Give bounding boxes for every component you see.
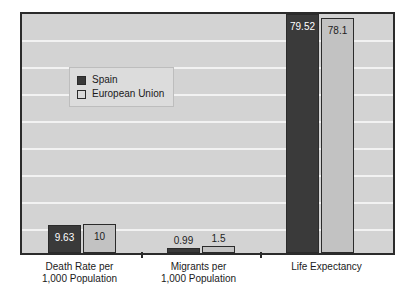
legend-item-spain: Spain [77,73,164,87]
legend-item-european-union: European Union [77,87,164,101]
category-label-line: Migrants per [139,261,258,273]
bar-value-label: 78.1 [322,25,353,36]
category-label-line: Death Rate per [20,261,139,273]
grouped-bar-chart: 9.63 10 0.99 1.5 79.52 78.1 Spain [0,0,415,303]
bar-spain-migrants[interactable]: 0.99 [167,248,200,253]
legend-swatch-icon [77,90,86,99]
bar-spain-life-expectancy[interactable]: 79.52 [286,14,319,253]
bar-value-label: 9.63 [49,232,80,243]
chart-legend: Spain European Union [69,67,174,107]
bar-european-union-migrants[interactable]: 1.5 [202,246,235,253]
category-label-migrants: Migrants per 1,000 Population [139,261,258,285]
category-label-line: 1,000 Population [139,273,258,285]
category-label-death-rate: Death Rate per 1,000 Population [20,261,139,285]
plot-area: 9.63 10 0.99 1.5 79.52 78.1 Spain [20,12,395,255]
bar-european-union-life-expectancy[interactable]: 78.1 [321,18,354,253]
bar-value-label: 10 [84,231,115,242]
legend-label: Spain [92,74,118,86]
legend-label: European Union [92,88,164,100]
legend-swatch-icon [77,76,86,85]
axis-tick [141,252,143,258]
category-label-life-expectancy: Life Expectancy [258,261,395,273]
bar-value-label: 1.5 [203,233,234,244]
bar-value-label: 79.52 [287,21,318,32]
bar-european-union-death-rate[interactable]: 10 [83,224,116,253]
axis-tick [260,252,262,258]
category-label-line: 1,000 Population [20,273,139,285]
bar-value-label: 0.99 [168,235,199,246]
bar-spain-death-rate[interactable]: 9.63 [48,225,81,253]
category-label-line: Life Expectancy [258,261,395,273]
